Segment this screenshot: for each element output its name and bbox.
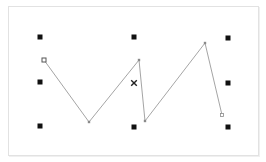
start-vertex-handle[interactable] <box>42 58 46 62</box>
vertex-handle-3[interactable] <box>144 120 146 122</box>
grid-marker-tl <box>38 35 43 40</box>
vertex-handle-4[interactable] <box>204 42 206 44</box>
grid-marker-ml <box>38 80 43 85</box>
vertex-handle-1[interactable] <box>88 121 90 123</box>
grid-marker-bl <box>38 124 43 129</box>
cross-icon <box>132 81 137 86</box>
center-cross-marker <box>132 81 137 86</box>
grid-marker-br <box>226 125 231 130</box>
end-vertex-handle[interactable] <box>221 114 224 117</box>
grid-markers <box>38 35 231 130</box>
grid-marker-mr <box>226 81 231 86</box>
grid-marker-tr <box>226 36 231 41</box>
vertex-handle-2[interactable] <box>138 59 140 61</box>
grid-marker-bc <box>132 125 137 130</box>
grid-marker-tc <box>132 35 137 40</box>
drawing-canvas[interactable] <box>0 0 266 162</box>
